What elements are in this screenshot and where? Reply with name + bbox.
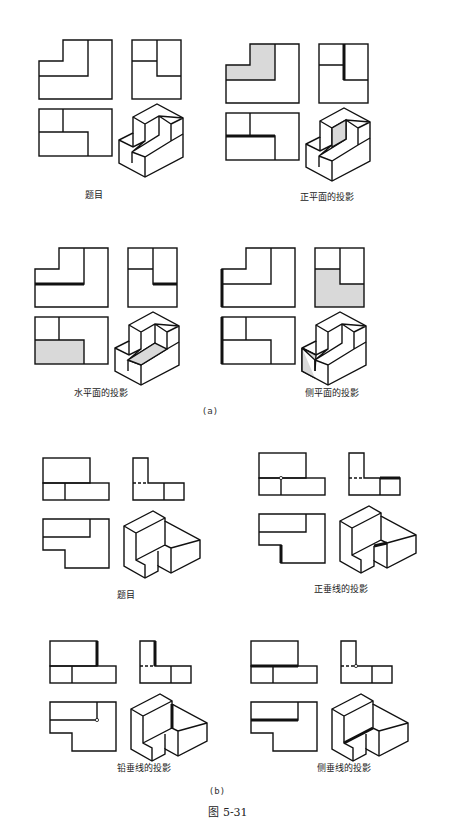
panel-b3-drawing (50, 641, 207, 761)
caption-a4: 侧平面的投影 (305, 386, 359, 399)
panel-a1-drawing (39, 40, 183, 177)
part-b-label: (b) (209, 786, 225, 796)
drawing-canvas (0, 0, 452, 824)
caption-b2: 正垂线的投影 (314, 582, 368, 595)
panel-a3-drawing (35, 248, 179, 385)
panel-b4-drawing (251, 641, 408, 761)
panel-b1-drawing (43, 458, 200, 578)
caption-b1: 题目 (117, 588, 135, 601)
caption-b3: 铅垂线的投影 (117, 761, 171, 774)
figure-label: 图 5-31 (208, 803, 247, 819)
panel-a4-drawing (222, 248, 366, 385)
panel-a2-drawing (226, 44, 370, 181)
caption-a3: 水平面的投影 (74, 386, 128, 399)
caption-a2: 正平面的投影 (300, 190, 354, 203)
caption-a1: 题目 (85, 188, 103, 201)
part-a-label: (a) (202, 406, 218, 416)
caption-b4: 侧垂线的投影 (317, 761, 371, 774)
panel-b2-drawing (259, 453, 416, 573)
